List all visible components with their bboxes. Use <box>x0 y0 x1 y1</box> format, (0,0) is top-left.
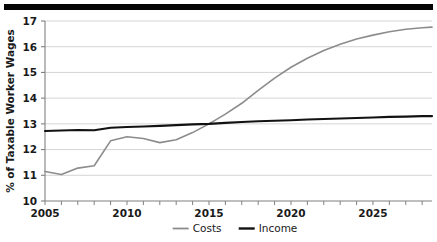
x-axis <box>45 201 432 205</box>
line-chart: 1011121314151617 20052010201520202025 % … <box>0 0 437 242</box>
y-tick-label-16: 16 <box>22 41 37 53</box>
series-line-costs <box>45 27 432 174</box>
legend-label-income[interactable]: Income <box>259 222 298 234</box>
x-tick-label-2015: 2015 <box>194 207 223 219</box>
y-axis <box>41 21 45 201</box>
y-tick-label-14: 14 <box>22 92 37 104</box>
x-tick-label-2025: 2025 <box>358 207 387 219</box>
x-tick-label-2005: 2005 <box>30 207 59 219</box>
y-tick-label-13: 13 <box>22 118 37 130</box>
y-axis-title: % of Taxable Worker Wages <box>4 29 16 193</box>
y-tick-label-10: 10 <box>22 195 37 207</box>
x-tick-label-2010: 2010 <box>112 207 141 219</box>
legend-label-costs[interactable]: Costs <box>193 222 222 234</box>
y-tick-label-15: 15 <box>22 66 37 78</box>
y-tick-labels: 1011121314151617 <box>22 15 37 207</box>
chart-legend[interactable]: CostsIncome <box>173 222 298 234</box>
y-tick-label-12: 12 <box>22 143 37 155</box>
x-tick-labels: 20052010201520202025 <box>30 207 387 219</box>
chart-figure: 1011121314151617 20052010201520202025 % … <box>0 0 437 242</box>
y-tick-label-17: 17 <box>22 15 37 27</box>
data-series <box>45 27 432 174</box>
x-tick-label-2020: 2020 <box>276 207 305 219</box>
y-tick-label-11: 11 <box>22 169 37 181</box>
